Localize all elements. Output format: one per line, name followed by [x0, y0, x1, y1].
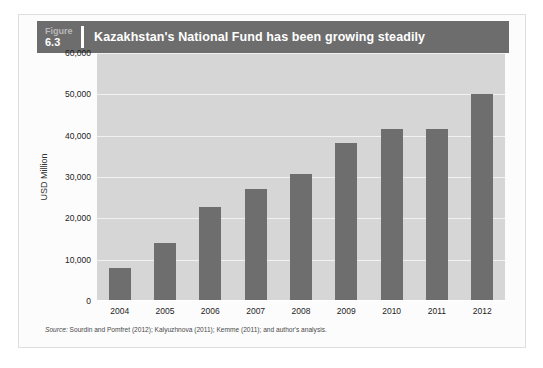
bar-2008 [290, 174, 312, 301]
bar-2009 [335, 143, 357, 301]
source-text: Sourdin and Pomfret (2012); Kalyuzhnova … [68, 326, 327, 333]
bar-2011 [426, 129, 448, 301]
y-axis-tick-labels: 010,00020,00030,00040,00050,00060,000 [51, 53, 95, 301]
y-axis-tick: 10,000 [65, 255, 91, 265]
bar-2005 [154, 243, 176, 301]
bar-slot [460, 53, 505, 301]
x-axis-tick: 2005 [142, 303, 187, 319]
source-label: Source: [45, 326, 68, 333]
plot-region [97, 53, 505, 301]
running-head [0, 1, 543, 13]
y-axis-title-text: USD Million [38, 153, 48, 200]
x-axis-tick-labels: 200420052006200720082009201020112012 [97, 303, 505, 319]
source-note: Source: Sourdin and Pomfret (2012); Kaly… [45, 325, 505, 334]
y-axis-tick: 0 [86, 296, 91, 306]
bar-slot [142, 53, 187, 301]
x-axis-tick: 2011 [414, 303, 459, 319]
x-axis-tick: 2010 [369, 303, 414, 319]
bar-slot [188, 53, 233, 301]
figure-header-band: Figure 6.3 Kazakhstan's National Fund ha… [37, 21, 509, 53]
y-axis-tick: 30,000 [65, 172, 91, 182]
x-axis-tick: 2008 [278, 303, 323, 319]
bar-2007 [245, 189, 267, 301]
bar-slot [414, 53, 459, 301]
bar-slot [97, 53, 142, 301]
x-axis-tick: 2004 [97, 303, 142, 319]
chart-area: USD Million 010,00020,00030,00040,00050,… [37, 53, 509, 321]
bar-slot [369, 53, 414, 301]
y-axis-tick: 60,000 [65, 48, 91, 58]
figure-card: Figure 6.3 Kazakhstan's National Fund ha… [18, 14, 526, 348]
bar-slot [278, 53, 323, 301]
y-axis-tick: 20,000 [65, 213, 91, 223]
bar-slot [324, 53, 369, 301]
figure-number-word: Figure [45, 26, 73, 36]
x-axis-tick: 2009 [324, 303, 369, 319]
figure-title: Kazakhstan's National Fund has been grow… [84, 21, 509, 53]
figure-number-value: 6.3 [45, 36, 60, 48]
x-axis-tick: 2007 [233, 303, 278, 319]
bar-2004 [109, 268, 131, 301]
x-axis-tick: 2006 [188, 303, 233, 319]
x-axis-tick: 2012 [460, 303, 505, 319]
y-axis-tick: 40,000 [65, 131, 91, 141]
y-axis-title: USD Million [35, 53, 51, 301]
bar-slot [233, 53, 278, 301]
bar-2006 [199, 207, 221, 301]
y-axis-tick: 50,000 [65, 89, 91, 99]
bar-series [97, 53, 505, 301]
x-axis-line [97, 300, 505, 301]
bar-2012 [471, 94, 493, 301]
figure-page: Figure 6.3 Kazakhstan's National Fund ha… [0, 0, 543, 368]
bar-2010 [381, 129, 403, 301]
